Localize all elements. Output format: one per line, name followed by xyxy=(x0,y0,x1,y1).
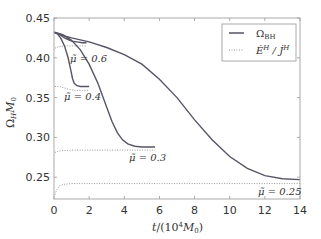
x-tick-label: 10 xyxy=(223,204,237,217)
annotation-mu-0.3: μ̃ = 0.3 xyxy=(129,152,166,163)
x-axis-label: t/(104M0) xyxy=(152,221,203,235)
chart: 024681012140.250.300.350.400.45 μ̃ = 0.6… xyxy=(0,0,321,239)
x-tick-label: 4 xyxy=(121,204,128,217)
annotation-mu-0.6: μ̃ = 0.6 xyxy=(70,53,108,64)
x-tick-label: 0 xyxy=(51,204,58,217)
x-tick-label: 14 xyxy=(293,204,307,217)
x-tick-label: 6 xyxy=(156,204,163,217)
annotation-mu-0.25: μ̃ = 0.25 xyxy=(258,186,302,197)
legend: ΩBH ĖH / J̇H xyxy=(222,24,296,61)
x-tick-label: 12 xyxy=(258,204,272,217)
y-tick-label: 0.30 xyxy=(26,131,51,144)
x-tick-label: 2 xyxy=(86,204,93,217)
y-tick-label: 0.40 xyxy=(26,52,51,65)
omega-bh-line-mu-0.3 xyxy=(54,32,155,147)
y-tick-label: 0.35 xyxy=(26,92,51,105)
y-tick-label: 0.25 xyxy=(26,171,51,184)
y-axis-label: ΩHM0 xyxy=(4,97,18,128)
energy-ratio-line-mu-0.6 xyxy=(55,46,87,48)
annotation-mu-0.4: μ̃ = 0.4 xyxy=(64,91,101,102)
x-tick-label: 8 xyxy=(191,204,198,217)
y-tick-label: 0.45 xyxy=(26,12,51,25)
